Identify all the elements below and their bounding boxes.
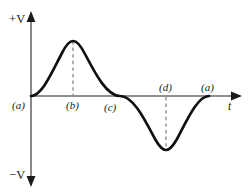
- sine-wave-figure: +V −V t (a) (b) (c) (d) (a): [0, 0, 251, 193]
- voltage-axis-up-arrowhead: [27, 11, 36, 22]
- voltage-axis: [27, 11, 36, 187]
- point-label-c-zero-crossing: (c): [104, 102, 116, 113]
- point-label-a-end: (a): [201, 82, 214, 93]
- point-label-a-start: (a): [12, 100, 25, 111]
- axis-label-time: t: [228, 101, 231, 113]
- time-axis-arrowhead: [231, 92, 242, 101]
- sine-wave-plot: [0, 0, 251, 193]
- point-label-b-peak: (b): [66, 100, 79, 111]
- axis-label-positive-voltage: +V: [9, 13, 25, 26]
- voltage-axis-down-arrowhead: [27, 176, 36, 187]
- axis-label-negative-voltage: −V: [9, 169, 25, 182]
- point-label-d-trough: (d): [159, 82, 172, 93]
